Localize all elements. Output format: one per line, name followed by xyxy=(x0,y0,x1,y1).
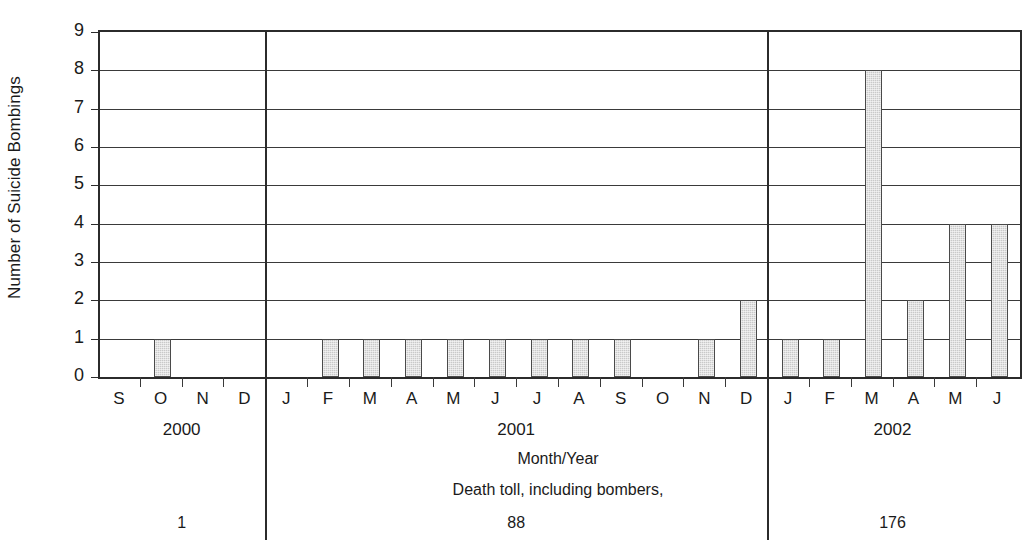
month-label: J xyxy=(767,389,809,409)
month-label: F xyxy=(809,389,851,409)
month-label: O xyxy=(642,389,684,409)
bar xyxy=(447,339,464,377)
bar xyxy=(405,339,422,377)
month-label: D xyxy=(725,389,767,409)
x-tick-mark xyxy=(600,377,601,387)
month-label: A xyxy=(558,389,600,409)
bar xyxy=(572,339,589,377)
y-tick-mark xyxy=(91,224,100,225)
month-label: S xyxy=(600,389,642,409)
month-label: N xyxy=(683,389,725,409)
year-label: 2000 xyxy=(98,420,265,440)
x-tick-mark xyxy=(391,377,392,387)
month-label: M xyxy=(349,389,391,409)
y-tick-mark xyxy=(91,377,100,378)
bar xyxy=(865,70,882,377)
year-label: 2002 xyxy=(767,420,1018,440)
y-tick-mark xyxy=(91,339,100,340)
bar xyxy=(823,339,840,377)
y-tick-mark xyxy=(91,262,100,263)
bar xyxy=(363,339,380,377)
death-toll-value: 88 xyxy=(265,513,767,533)
month-label: J xyxy=(474,389,516,409)
month-label: O xyxy=(140,389,182,409)
bar xyxy=(322,339,339,377)
bar xyxy=(614,339,631,377)
x-tick-mark xyxy=(809,377,810,387)
year-label: 2001 xyxy=(265,420,767,440)
y-tick-label: 4 xyxy=(58,213,84,231)
x-tick-mark xyxy=(516,377,517,387)
x-tick-mark xyxy=(642,377,643,387)
y-tick-label: 7 xyxy=(58,98,84,116)
y-tick-mark xyxy=(91,147,100,148)
x-tick-mark xyxy=(683,377,684,387)
x-tick-mark xyxy=(433,377,434,387)
x-tick-mark xyxy=(474,377,475,387)
x-axis-title: Month/Year xyxy=(98,450,1018,468)
y-tick-mark xyxy=(91,185,100,186)
x-tick-mark xyxy=(976,377,977,387)
x-tick-mark xyxy=(893,377,894,387)
bar xyxy=(154,339,171,377)
bar xyxy=(907,300,924,377)
y-tick-label: 9 xyxy=(58,21,84,39)
bar xyxy=(949,224,966,377)
month-label: D xyxy=(223,389,265,409)
month-label: J xyxy=(976,389,1018,409)
x-tick-mark xyxy=(140,377,141,387)
y-tick-label: 1 xyxy=(58,328,84,346)
y-tick-label: 5 xyxy=(58,174,84,192)
month-label: F xyxy=(307,389,349,409)
month-label: J xyxy=(265,389,307,409)
x-tick-mark xyxy=(851,377,852,387)
month-label: N xyxy=(182,389,224,409)
plot-area xyxy=(98,30,1022,379)
x-tick-mark xyxy=(349,377,350,387)
month-label: M xyxy=(433,389,475,409)
y-tick-label: 6 xyxy=(58,136,84,154)
x-tick-mark xyxy=(307,377,308,387)
x-tick-mark xyxy=(182,377,183,387)
death-toll-caption: Death toll, including bombers, xyxy=(98,481,1018,499)
y-tick-mark xyxy=(91,109,100,110)
x-tick-mark xyxy=(934,377,935,387)
y-tick-mark xyxy=(91,32,100,33)
month-label: M xyxy=(851,389,893,409)
y-axis-title: Number of Suicide Bombings xyxy=(0,0,30,375)
x-tick-mark xyxy=(223,377,224,387)
x-tick-mark xyxy=(558,377,559,387)
bar-chart-figure: Number of Suicide Bombings 0123456789 SO… xyxy=(0,0,1036,552)
y-tick-mark xyxy=(91,300,100,301)
y-tick-label: 0 xyxy=(58,366,84,384)
death-toll-value: 176 xyxy=(767,513,1018,533)
death-toll-value: 1 xyxy=(98,513,265,533)
month-label: A xyxy=(391,389,433,409)
bar xyxy=(489,339,506,377)
bar xyxy=(782,339,799,377)
y-tick-mark xyxy=(91,70,100,71)
bar xyxy=(698,339,715,377)
month-label: J xyxy=(516,389,558,409)
y-tick-label: 8 xyxy=(58,59,84,77)
y-tick-label: 3 xyxy=(58,251,84,269)
bar xyxy=(531,339,548,377)
month-label: A xyxy=(893,389,935,409)
month-label: S xyxy=(98,389,140,409)
bar xyxy=(991,224,1008,377)
month-label: M xyxy=(934,389,976,409)
bar xyxy=(740,300,757,377)
y-tick-label: 2 xyxy=(58,289,84,307)
x-tick-mark xyxy=(725,377,726,387)
